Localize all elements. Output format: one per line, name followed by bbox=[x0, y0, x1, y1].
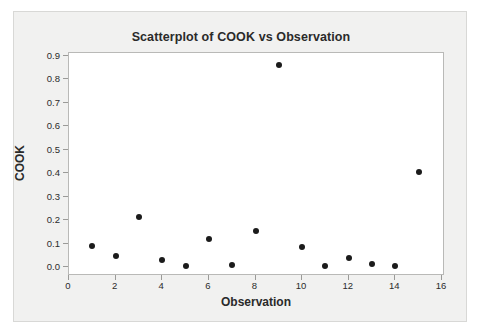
x-tick-mark bbox=[161, 275, 162, 280]
x-tick-label: 14 bbox=[389, 280, 400, 291]
x-tick-mark bbox=[255, 275, 256, 280]
x-tick-label: 6 bbox=[205, 280, 210, 291]
x-tick-mark bbox=[441, 275, 442, 280]
scatter-point bbox=[206, 236, 212, 242]
x-tick-mark bbox=[348, 275, 349, 280]
scatter-point bbox=[136, 214, 142, 220]
scatter-point bbox=[276, 62, 282, 68]
x-tick-label: 4 bbox=[159, 280, 164, 291]
x-tick-label: 16 bbox=[436, 280, 447, 291]
scatter-point bbox=[369, 261, 375, 267]
x-tick-mark bbox=[115, 275, 116, 280]
scatter-point bbox=[322, 263, 328, 269]
x-tick-label: 8 bbox=[252, 280, 257, 291]
x-tick-mark bbox=[208, 275, 209, 280]
chart-card: Scatterplot of COOK vs Observation COOK … bbox=[13, 11, 467, 322]
scatter-point bbox=[183, 263, 189, 269]
scatter-point bbox=[159, 257, 165, 263]
x-tick-label: 12 bbox=[342, 280, 353, 291]
scatter-points-layer bbox=[69, 53, 443, 274]
scatter-point bbox=[346, 255, 352, 261]
x-tick-mark bbox=[301, 275, 302, 280]
scatter-point bbox=[229, 262, 235, 268]
x-tick-label: 0 bbox=[65, 280, 70, 291]
scatter-point bbox=[392, 263, 398, 269]
x-tick-mark bbox=[68, 275, 69, 280]
x-tick-label: 2 bbox=[112, 280, 117, 291]
scatter-point bbox=[89, 243, 95, 249]
x-tick-label: 10 bbox=[296, 280, 307, 291]
scatter-point bbox=[253, 228, 259, 234]
x-tick-mark bbox=[394, 275, 395, 280]
scatter-point bbox=[113, 253, 119, 259]
scatter-point bbox=[416, 169, 422, 175]
plot-area bbox=[68, 52, 444, 275]
scatter-point bbox=[299, 244, 305, 250]
